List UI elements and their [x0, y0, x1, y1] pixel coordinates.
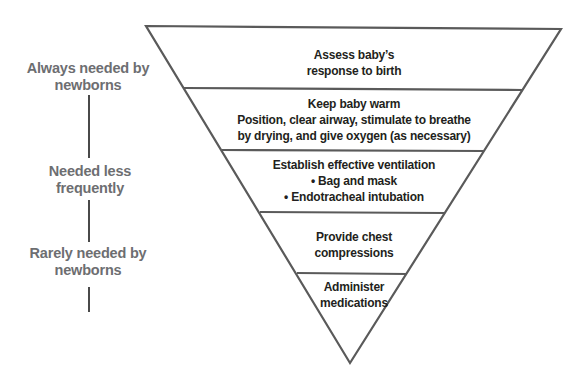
tier-divider-2	[222, 150, 484, 151]
connector-line-1	[88, 95, 90, 158]
label-rarely-line1: Rarely needed by	[0, 245, 176, 262]
tier-5-line-1: Administer	[294, 279, 414, 295]
tier-4-line-1: Provide chest	[264, 229, 444, 245]
tier-2-line-3: by drying, and give oxygen (as necessary…	[204, 128, 504, 144]
label-always-needed: Always needed by newborns	[0, 60, 176, 94]
tier-3-line-2: • Bag and mask	[224, 173, 484, 189]
tier-5-line-2: medications	[294, 295, 414, 311]
tier-divider-4	[297, 273, 407, 274]
label-always-line2: newborns	[0, 77, 176, 94]
tier-4-line-2: compressions	[264, 245, 444, 261]
tier-2-line-2: Position, clear airway, stimulate to bre…	[204, 112, 504, 128]
label-always-line1: Always needed by	[0, 60, 176, 77]
tier-3-line-3: • Endotracheal intubation	[224, 189, 484, 205]
tier-ventilation: Establish effective ventilation • Bag an…	[224, 157, 484, 205]
tier-3-line-1: Establish effective ventilation	[224, 157, 484, 173]
tier-divider-3	[260, 212, 445, 213]
tier-2-line-1: Keep baby warm	[204, 96, 504, 112]
label-rarely-needed: Rarely needed by newborns	[0, 245, 176, 279]
tier-1-line-1: Assess baby’s	[204, 47, 504, 63]
connector-line-3	[88, 287, 90, 312]
tier-chest-compressions: Provide chest compressions	[264, 229, 444, 261]
tier-keep-warm: Keep baby warm Position, clear airway, s…	[204, 96, 504, 144]
label-needed-less-line2: frequently	[2, 180, 178, 197]
label-rarely-line2: newborns	[0, 262, 176, 279]
tier-medications: Administer medications	[294, 279, 414, 311]
tier-assess-response: Assess baby’s response to birth	[204, 47, 504, 79]
label-needed-less-line1: Needed less	[2, 163, 178, 180]
tier-1-line-2: response to birth	[204, 63, 504, 79]
label-needed-less: Needed less frequently	[2, 163, 178, 197]
connector-line-2	[88, 200, 90, 242]
